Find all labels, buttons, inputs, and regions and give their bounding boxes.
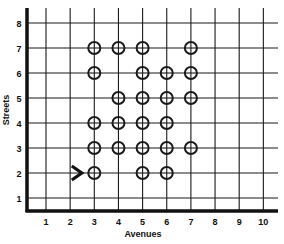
x-tick-label: 8 [213, 217, 218, 227]
y-tick-label: 6 [16, 69, 21, 79]
y-tick-label: 5 [16, 94, 21, 104]
axes [26, 8, 279, 212]
x-tick-label: 4 [116, 217, 121, 227]
x-tick-label: 5 [140, 217, 145, 227]
x-tick-label: 9 [237, 217, 242, 227]
x-tick-labels: 12345678910 [43, 217, 268, 227]
circle-crosshair-icon [185, 142, 197, 154]
y-tick-label: 3 [16, 144, 21, 154]
circle-crosshair-icon [112, 92, 124, 104]
y-tick-label: 8 [16, 19, 21, 29]
circle-crosshair-icon [137, 42, 149, 54]
circle-crosshair-icon [161, 67, 173, 79]
x-tick-label: 10 [258, 217, 268, 227]
circle-crosshair-icon [88, 142, 100, 154]
circle-crosshair-icon [161, 167, 173, 179]
circle-crosshair-icon [137, 67, 149, 79]
circle-crosshair-icon [88, 42, 100, 54]
circle-crosshair-icon [112, 117, 124, 129]
x-axis-title: Avenues [124, 229, 161, 239]
y-tick-label: 4 [16, 119, 21, 129]
circle-crosshair-icon [137, 167, 149, 179]
circle-crosshair-icon [185, 42, 197, 54]
x-tick-label: 6 [164, 217, 169, 227]
y-tick-label: 1 [16, 194, 21, 204]
circle-crosshair-icon [88, 67, 100, 79]
y-tick-label: 2 [16, 169, 21, 179]
circle-crosshair-icon [161, 117, 173, 129]
street-grid-diagram: 12345678910 12345678 Avenues Streets [0, 0, 284, 244]
circle-crosshair-icon [185, 67, 197, 79]
x-tick-label: 3 [92, 217, 97, 227]
x-tick-label: 1 [43, 217, 48, 227]
x-tick-label: 2 [68, 217, 73, 227]
circle-crosshair-icon [161, 142, 173, 154]
circle-crosshair-icon [185, 92, 197, 104]
circle-crosshair-icon [161, 92, 173, 104]
circle-crosshair-icon [88, 117, 100, 129]
y-tick-labels: 12345678 [16, 19, 21, 204]
y-tick-label: 7 [16, 44, 21, 54]
circle-crosshair-icon [137, 117, 149, 129]
circle-crosshair-icon [137, 92, 149, 104]
circle-crosshair-icon [112, 142, 124, 154]
y-axis-title: Streets [1, 95, 11, 126]
circle-crosshair-icon [137, 142, 149, 154]
grid-lines [27, 8, 278, 211]
x-tick-label: 7 [188, 217, 193, 227]
circle-crosshair-icon [112, 42, 124, 54]
circle-crosshair-icon [88, 167, 100, 179]
